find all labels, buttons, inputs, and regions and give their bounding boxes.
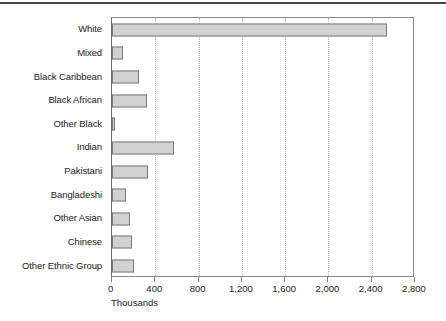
bar[interactable]	[112, 118, 115, 131]
bar[interactable]	[112, 260, 134, 273]
bar[interactable]	[112, 189, 126, 202]
category-label: Other Ethnic Group	[0, 253, 107, 277]
axis-tick-label: 0	[108, 283, 113, 294]
axis-tick-label: 2,400	[359, 283, 383, 294]
bar-row	[112, 254, 413, 278]
bar[interactable]	[112, 236, 132, 249]
axis-tick-label: 400	[146, 283, 162, 294]
bar[interactable]	[112, 47, 123, 60]
bar-row	[112, 42, 413, 66]
category-label: Black Caribbean	[0, 64, 107, 88]
category-label: Indian	[0, 135, 107, 159]
axis-tick	[414, 277, 415, 282]
bar[interactable]	[112, 94, 147, 107]
category-label: Bangladeshi	[0, 182, 107, 206]
axis-tick	[111, 277, 112, 282]
value-axis-title: Thousands	[111, 297, 158, 308]
axis-tick-label: 2,800	[402, 283, 426, 294]
bar-chart-figure: WhiteMixedBlack CaribbeanBlack AfricanOt…	[0, 0, 446, 321]
bar[interactable]	[112, 212, 130, 225]
top-divider	[0, 2, 446, 4]
axis-tick	[371, 277, 372, 282]
bar-row	[112, 160, 413, 184]
bar-row	[112, 65, 413, 89]
category-label: Other Asian	[0, 206, 107, 230]
bar-row	[112, 136, 413, 160]
bar[interactable]	[112, 23, 387, 36]
axis-tick	[327, 277, 328, 282]
category-label: White	[0, 17, 107, 41]
axis-tick-label: 800	[190, 283, 206, 294]
axis-tick	[198, 277, 199, 282]
category-label: Other Black	[0, 112, 107, 136]
bar[interactable]	[112, 141, 174, 154]
category-label: Black African	[0, 88, 107, 112]
bar[interactable]	[112, 165, 148, 178]
category-label: Chinese	[0, 230, 107, 254]
axis-tick	[284, 277, 285, 282]
axis-tick-label: 1,200	[229, 283, 253, 294]
bar-row	[112, 207, 413, 231]
plot-area	[111, 17, 414, 277]
category-label: Mixed	[0, 41, 107, 65]
bar-row	[112, 18, 413, 42]
axis-tick	[241, 277, 242, 282]
axis-tick-label: 1,600	[272, 283, 296, 294]
bar[interactable]	[112, 71, 139, 84]
bar-row	[112, 89, 413, 113]
bar-rows	[112, 18, 413, 276]
category-axis-labels: WhiteMixedBlack CaribbeanBlack AfricanOt…	[0, 17, 107, 277]
bar-row	[112, 113, 413, 137]
axis-tick	[154, 277, 155, 282]
category-label: Pakistani	[0, 159, 107, 183]
bar-row	[112, 183, 413, 207]
bar-row	[112, 231, 413, 255]
axis-tick-label: 2,000	[316, 283, 340, 294]
